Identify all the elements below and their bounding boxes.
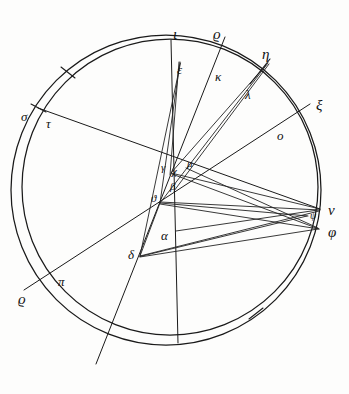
label-iota: ι — [173, 27, 177, 42]
label-pi: π — [58, 275, 65, 288]
label-kappa: κ — [215, 70, 221, 83]
label-psi: ψ — [310, 211, 316, 221]
label-epsilon: ε — [177, 63, 182, 76]
label-sigma: σ — [21, 110, 27, 123]
label-eta: η — [262, 47, 269, 62]
line-sigma-tau-nu — [38, 108, 320, 209]
line-delta-theta — [140, 203, 160, 256]
line-mu-phi — [186, 168, 318, 228]
label-phi: φ — [328, 225, 336, 240]
line-eta-beta — [174, 64, 269, 191]
label-lambda: λ — [245, 88, 251, 101]
label-nu: ν — [328, 203, 335, 218]
line-xi-omicron-rho — [24, 104, 310, 290]
diagram-canvas — [0, 0, 349, 394]
geometric-diagram-figure: ι ϱ η ε κ λ ξ σ τ ο γ χ μ β ϑ ν ψ φ α δ … — [0, 0, 349, 394]
label-rho-top: ϱ — [213, 27, 221, 42]
label-alpha: α — [161, 229, 168, 242]
label-xi: ξ — [316, 98, 322, 113]
label-rho-bottom: ϱ — [18, 292, 26, 307]
label-theta: ϑ — [151, 193, 156, 204]
label-delta: δ — [128, 248, 134, 261]
line-theta-phi — [160, 204, 319, 229]
tick-arc-upper-left-icon — [61, 67, 75, 78]
line-theta-psi — [160, 203, 308, 216]
label-gamma: γ — [161, 162, 165, 173]
label-mu: μ — [187, 158, 193, 169]
label-omicron: ο — [277, 129, 284, 142]
tick-eta-lambda-icon — [250, 59, 270, 84]
label-beta: β — [170, 181, 175, 192]
label-chi: χ — [172, 166, 177, 177]
label-tau: τ — [46, 117, 51, 130]
tick-arc-lower-right-icon — [249, 308, 263, 319]
